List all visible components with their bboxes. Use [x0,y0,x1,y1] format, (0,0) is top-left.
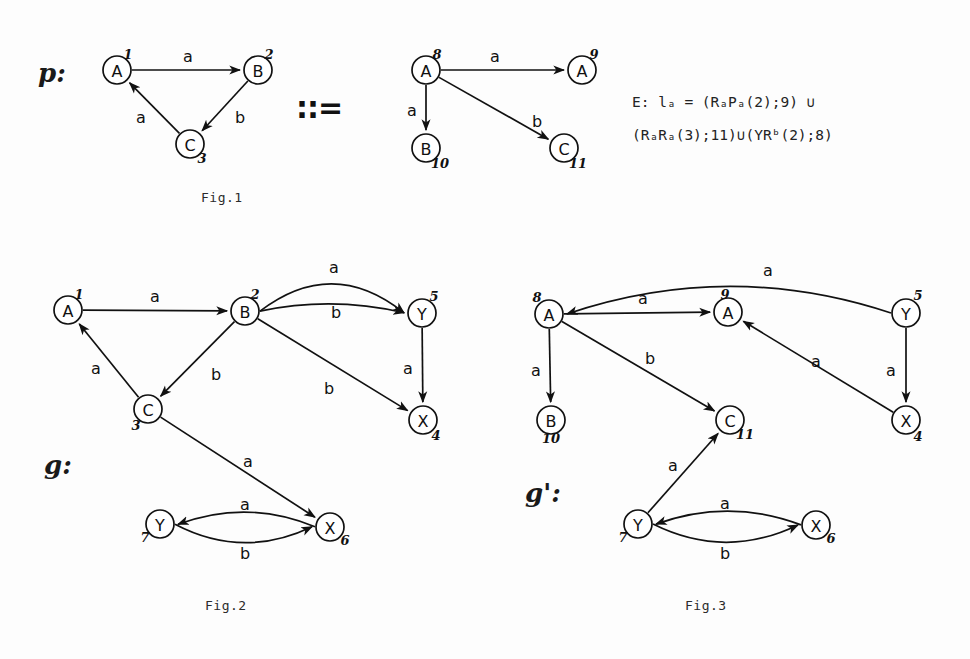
graph-edge [422,328,423,402]
node-label: Y [416,305,427,324]
graph-node[interactable]: X4 [409,406,441,443]
embedding-formula-line-1: E: lₐ = (RₐPₐ(2);9) ∪ [632,94,815,110]
node-label: X [418,412,429,431]
node-number: 9 [720,287,729,302]
node-number: 11 [736,427,754,442]
edge-label: b [645,349,655,368]
edge-label: a [150,287,160,306]
node-label: Y [900,305,911,324]
graph-edge [564,312,710,314]
graph-edge [161,322,235,397]
node-number: 9 [589,47,598,62]
node-number: 6 [340,533,349,548]
node-number: 10 [431,156,449,171]
node-label: X [811,517,822,536]
graph-node[interactable]: Y7 [618,510,652,545]
edge-label: b [235,108,245,127]
node-number: 6 [826,531,835,546]
node-number: 2 [249,287,259,302]
graph-node[interactable]: A9 [568,47,599,85]
graph-node[interactable]: B10 [412,134,449,171]
graph-node[interactable]: Y5 [892,288,923,328]
graph-edge [79,324,138,397]
edge-label: a [720,494,730,513]
node-label: A [63,302,74,321]
graph-node[interactable]: Y5 [408,289,439,328]
graph-edge [161,417,315,517]
graph-node[interactable]: B2 [244,47,274,85]
node-label: B [240,303,251,322]
node-number: 7 [618,530,627,545]
edge-label: b [331,303,341,322]
graph-node[interactable]: A1 [54,287,84,325]
embedding-formula-line-2: (RₐRₐ(3);11)∪(YRᵇ(2);8) [632,127,833,143]
node-label: A [421,62,432,81]
edge-label: a [490,47,500,66]
graph-node[interactable]: A1 [103,47,133,85]
graph-node[interactable]: A8 [532,290,563,329]
edge-label: a [183,47,193,66]
graph-node[interactable]: X6 [802,511,836,546]
graph-node[interactable]: C3 [176,130,207,166]
graph-edge [648,433,718,512]
graph-node[interactable]: X4 [892,406,923,444]
node-label: A [723,304,734,323]
graph-node[interactable]: A9 [714,287,742,327]
node-label: B [421,140,432,159]
graph-label-g: g: [44,450,72,480]
graph-node[interactable]: B10 [537,406,565,446]
graph-edge [549,329,550,402]
edge-label: b [240,544,250,563]
node-number: 2 [263,47,273,62]
node-label: C [142,401,153,420]
node-number: 8 [532,290,541,305]
node-number: 1 [123,47,132,62]
node-number: 10 [542,431,560,446]
edge-label: a [403,359,413,378]
graph-canvas: A1B2C3A8A9B10C11A1B2C3Y5X4Y7X6A8A9B10C11… [0,0,970,659]
graph-edge [83,310,227,311]
node-label: C [724,412,735,431]
graph-edge [656,511,801,525]
node-number: 5 [913,288,922,303]
edge-label: b [532,112,542,131]
graph-label-g-prime: g': [525,478,561,508]
graph-node[interactable]: C11 [716,406,754,442]
graph-node[interactable]: X6 [316,513,350,548]
node-label: B [253,62,264,81]
graph-label-p: p: [38,58,66,88]
graph-node[interactable]: A8 [412,47,442,85]
graph-edge [653,524,798,542]
edge-label: a [240,495,250,514]
edge-labels-layer: abaaabaabbbaaaabaabaaaaab [91,47,896,563]
node-label: C [558,140,569,159]
edge-label: a [329,258,339,277]
node-number: 8 [432,47,441,62]
node-number: 3 [197,151,206,166]
caption-fig-3: Fig.3 [685,598,727,613]
node-number: 4 [431,428,440,443]
edge-label: a [886,361,896,380]
graph-node[interactable]: Y7 [140,510,174,545]
edge-label: b [720,544,730,563]
graph-node[interactable]: C11 [550,134,587,171]
node-number: 11 [569,156,587,171]
node-label: X [901,412,912,431]
figure-page: A1B2C3A8A9B10C11A1B2C3Y5X4Y7X6A8A9B10C11… [0,0,970,659]
graph-node[interactable]: C3 [131,395,162,433]
caption-fig-1: Fig.1 [201,190,243,205]
node-number: 3 [131,418,140,433]
node-number: 7 [140,530,149,545]
node-label: Y [154,516,165,535]
nodes-layer: A1B2C3A8A9B10C11A1B2C3Y5X4Y7X6A8A9B10C11… [54,47,923,548]
graph-edge [178,512,315,527]
edge-label: b [324,379,334,398]
graph-node[interactable]: B2 [231,287,260,326]
edge-label: a [531,361,541,380]
node-label: C [184,136,195,155]
formula-line-2-text: (RₐRₐ(3);11)∪(YRᵇ(2);8) [632,127,833,143]
edge-label: a [668,456,678,475]
edge-label: a [407,101,417,120]
node-label: B [546,412,557,431]
node-label: A [544,306,555,325]
